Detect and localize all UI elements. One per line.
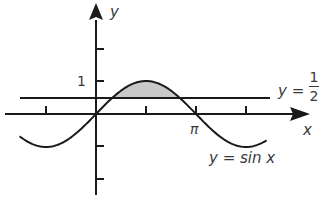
y-axis-arrow-icon (89, 3, 103, 20)
tick-label-pi: π (190, 122, 198, 136)
x-axis-label: x (303, 123, 312, 138)
half-denominator: 2 (310, 89, 319, 103)
sine-diagram: y 1 π x y = sin x y = 1 2 (0, 0, 323, 202)
y-axis-label: y (110, 5, 119, 20)
plot-area (0, 0, 323, 202)
tick-label-one: 1 (77, 74, 86, 88)
x-axis-arrow-icon (290, 107, 310, 121)
fraction-bar (309, 86, 319, 87)
half-label-lhs-text: y = (278, 82, 304, 100)
half-numerator: 1 (310, 70, 319, 84)
sine-label-text: y = sin x (209, 149, 275, 167)
sine-curve-label: y = sin x (209, 151, 275, 166)
half-line-label-lhs: y = (278, 84, 304, 99)
half-fraction: 1 2 (309, 70, 319, 103)
